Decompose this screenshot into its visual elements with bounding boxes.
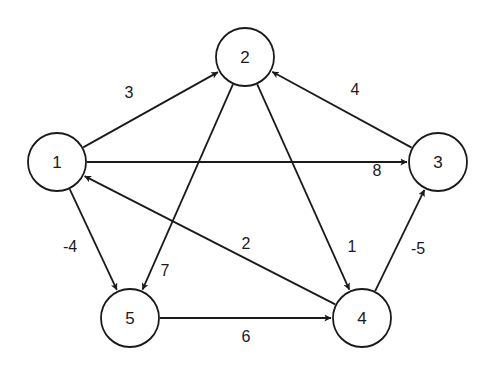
node-5: 5	[101, 289, 159, 347]
edge-weight-label: 3	[125, 84, 134, 101]
node-2: 2	[216, 28, 274, 86]
edge-2-to-4	[257, 84, 349, 289]
edge-weight-label: -5	[411, 240, 425, 257]
node-1: 1	[28, 133, 86, 191]
node-label: 3	[433, 153, 442, 172]
node-label: 4	[357, 309, 366, 328]
edge-4-to-1	[85, 176, 336, 304]
node-3: 3	[409, 133, 467, 191]
edge-weight-label: 8	[373, 162, 382, 179]
node-label: 2	[240, 48, 249, 67]
node-4: 4	[333, 289, 391, 347]
edge-weight-label: 6	[242, 328, 251, 345]
edges-layer	[70, 72, 425, 318]
node-label: 1	[52, 153, 61, 172]
edge-weight-label: -4	[63, 238, 77, 255]
node-label: 5	[125, 309, 134, 328]
edge-weight-label: 2	[242, 235, 251, 252]
edge-1-to-2	[83, 72, 218, 147]
edge-weight-label: 4	[351, 81, 360, 98]
edge-2-to-5	[142, 84, 232, 289]
edge-3-to-2	[272, 72, 411, 148]
directed-graph-diagram: 12345 38-47142-56	[0, 0, 494, 374]
edge-weight-label: 7	[161, 262, 170, 279]
edge-weight-label: 1	[348, 238, 357, 255]
nodes-layer: 12345	[28, 28, 467, 347]
